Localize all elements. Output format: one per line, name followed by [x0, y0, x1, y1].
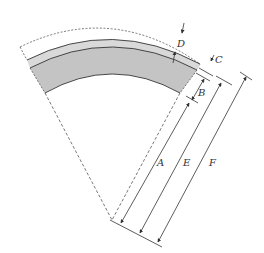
label-e: E: [182, 157, 191, 168]
label-d: D: [176, 38, 185, 49]
label-b: B: [197, 87, 205, 98]
sector-diagram: D C B A E F: [0, 0, 264, 253]
label-f: F: [208, 157, 217, 168]
label-c: C: [215, 54, 223, 65]
dimension-b: B: [192, 79, 205, 100]
dimension-c: C: [211, 54, 223, 65]
dimension-f: F: [158, 77, 246, 242]
label-a: A: [156, 157, 164, 168]
